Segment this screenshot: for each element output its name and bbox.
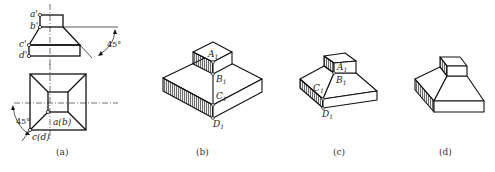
point-d-prime <box>27 54 30 57</box>
caption-a: (a) <box>56 147 68 157</box>
point-a-b <box>46 110 49 113</box>
point-b-prime <box>38 25 41 28</box>
figure-canvas: a' b' c' d' 45° 45° a(b) c(d) (a) <box>0 0 495 172</box>
panel-a: a' b' c' d' 45° 45° a(b) c(d) (a) <box>11 4 121 157</box>
label-a-prime: a' <box>30 9 38 19</box>
label-c-d: c(d) <box>32 132 50 142</box>
caption-b: (b) <box>196 147 209 157</box>
point-c-prime <box>27 43 30 46</box>
angle-label-front: 45° <box>107 40 121 49</box>
label-d-prime: d' <box>19 50 27 60</box>
caption-c: (c) <box>333 147 345 157</box>
caption-d: (d) <box>439 147 452 157</box>
label-a-b: a(b) <box>53 117 72 127</box>
top-view <box>11 64 118 141</box>
angle-label-top: 45° <box>16 117 30 126</box>
label-b-prime: b' <box>30 21 38 31</box>
front-view <box>27 4 118 66</box>
label-D1-c: D1 <box>321 109 333 120</box>
label-c-prime: c' <box>19 39 27 49</box>
label-D1-b: D1 <box>212 119 224 130</box>
panel-d <box>415 57 484 112</box>
point-a-prime <box>38 13 41 16</box>
